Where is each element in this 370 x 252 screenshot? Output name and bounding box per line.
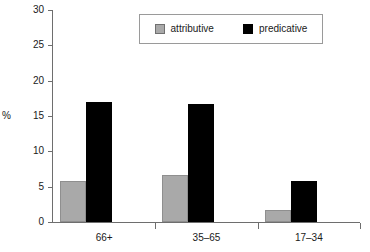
y-axis-tick-label: 30 xyxy=(18,5,44,15)
x-axis-line xyxy=(52,222,360,223)
y-axis-tick-mark xyxy=(48,187,52,188)
x-axis-separator-tick xyxy=(155,223,156,229)
y-axis-tick-mark xyxy=(48,10,52,11)
bar-predicative-66- xyxy=(86,102,112,222)
bar-chart: % 051015202530 66+35–6517–34 attributive… xyxy=(0,0,370,252)
x-axis-separator-tick xyxy=(258,223,259,229)
y-axis-tick-label: 5 xyxy=(18,182,44,192)
x-axis-category-label: 66+ xyxy=(64,232,144,243)
y-axis-tick-mark xyxy=(48,222,52,223)
legend: attributivepredicative xyxy=(139,14,323,44)
y-axis-tick-mark xyxy=(48,45,52,46)
x-axis-category-label: 17–34 xyxy=(269,232,349,243)
y-axis-tick-mark xyxy=(48,116,52,117)
bar-attributive-35-65 xyxy=(162,175,188,222)
x-axis-separator-tick xyxy=(360,223,361,229)
bar-attributive-66- xyxy=(60,181,86,222)
legend-swatch-icon-attributive xyxy=(155,24,165,34)
legend-label: predicative xyxy=(259,24,307,34)
y-axis-tick-label: 10 xyxy=(18,146,44,156)
y-axis-tick-label: 25 xyxy=(18,40,44,50)
bar-predicative-35-65 xyxy=(188,104,214,222)
y-axis-tick-label: 0 xyxy=(18,217,44,227)
x-axis-category-label: 35–65 xyxy=(167,232,247,243)
y-axis-tick-label: 15 xyxy=(18,111,44,121)
legend-label: attributive xyxy=(171,24,214,34)
y-axis-tick-mark xyxy=(48,81,52,82)
legend-entry-predicative: predicative xyxy=(243,24,307,34)
y-axis-title: % xyxy=(2,111,11,121)
y-axis-tick-mark xyxy=(48,151,52,152)
legend-swatch-icon-predicative xyxy=(243,24,253,34)
y-axis-tick-label: 20 xyxy=(18,76,44,86)
bar-predicative-17-34 xyxy=(291,181,317,222)
bar-attributive-17-34 xyxy=(265,210,291,222)
legend-entry-attributive: attributive xyxy=(155,24,214,34)
